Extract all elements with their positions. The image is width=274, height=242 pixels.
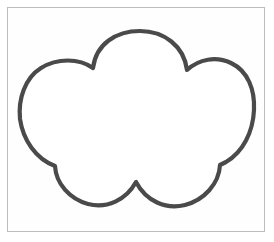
drawing-canvas [0,0,274,242]
cloud-outline-path [20,31,254,206]
cloud-shape-svg [0,0,274,242]
